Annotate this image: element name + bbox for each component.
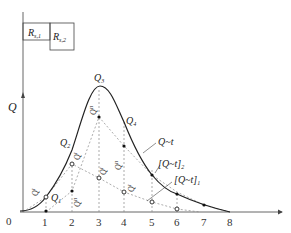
peak-labels: Q1 Q2 Q3 Q4 <box>51 72 136 204</box>
component-hydrograph-1 <box>23 164 200 212</box>
svg-text:Q4: Q4 <box>126 115 136 127</box>
svg-text:2: 2 <box>69 216 75 228</box>
svg-text:7: 7 <box>201 216 207 228</box>
unit-hydrograph-figure: Q 0 1 2 3 4 5 6 7 8 Rs,1 Rs,2 <box>0 0 291 233</box>
svg-text:QI: QI <box>99 167 108 175</box>
svg-text:QII: QII <box>73 198 82 207</box>
origin-label: 0 <box>6 215 12 227</box>
svg-text:3: 3 <box>96 216 102 228</box>
svg-text:6: 6 <box>174 216 180 228</box>
svg-text:QI: QI <box>31 188 40 196</box>
svg-text:1: 1 <box>42 216 48 228</box>
svg-text:Q1: Q1 <box>51 192 61 204</box>
svg-text:5: 5 <box>149 216 155 228</box>
y-axis-label: Q <box>8 100 17 114</box>
svg-text:QII: QII <box>89 106 98 115</box>
svg-text:QI: QI <box>127 184 136 192</box>
curve-leaders <box>143 143 172 201</box>
component-1-label: [Q~t]1 <box>174 174 200 186</box>
svg-text:Rs,2: Rs,2 <box>52 31 66 43</box>
rainfall-block-2: Rs,2 <box>50 23 74 50</box>
x-tick-labels: 1 2 3 4 5 6 7 8 <box>42 216 233 228</box>
svg-text:4: 4 <box>121 216 127 228</box>
svg-text:Rs,1: Rs,1 <box>27 27 41 39</box>
svg-text:Q3: Q3 <box>94 72 104 84</box>
svg-text:Q2: Q2 <box>60 137 70 149</box>
rainfall-block-1: Rs,1 <box>23 23 50 40</box>
y-axis-arrow <box>21 92 25 98</box>
component-2-label: [Q~t]2 <box>158 158 184 170</box>
total-hydrograph-label: Q~t <box>158 136 174 147</box>
svg-text:8: 8 <box>227 216 233 228</box>
svg-text:QI: QI <box>73 152 82 160</box>
component-labels: QI QII QI QII QI QII QI <box>31 106 136 207</box>
svg-text:QII: QII <box>114 161 123 170</box>
